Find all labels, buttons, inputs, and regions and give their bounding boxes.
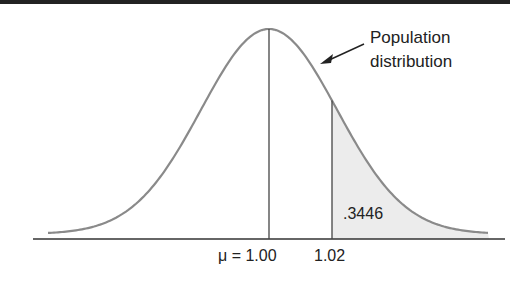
arrowhead-icon bbox=[320, 54, 333, 64]
annotation-arrow-line bbox=[327, 44, 364, 61]
annotation-label-line2: distribution bbox=[370, 53, 452, 70]
tick-label-cutoff: 1.02 bbox=[314, 248, 345, 264]
annotation-label-line1: Population bbox=[370, 29, 450, 46]
chart-canvas: Population distribution .3446 μ = 1.00 1… bbox=[0, 0, 510, 284]
area-value-label: .3446 bbox=[343, 206, 383, 222]
tick-label-mean: μ = 1.00 bbox=[218, 248, 277, 264]
top-rule bbox=[0, 0, 510, 4]
